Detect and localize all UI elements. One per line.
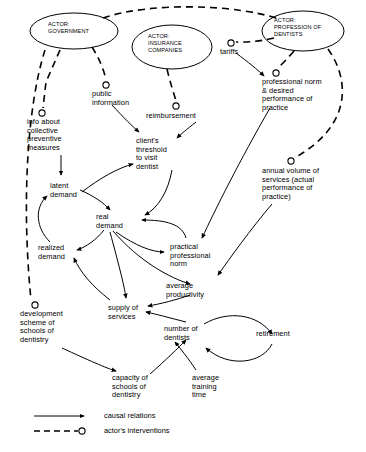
variable-label-latent-demand: latent demand	[50, 182, 77, 199]
diagram-edges-layer	[0, 0, 366, 452]
legend-intervention-circle	[79, 428, 85, 434]
actor-label-profession-of-dentists: ACTOR: PROFESSION OF DENTISTS	[274, 17, 338, 38]
arrow-real-demand-to-realized-demand	[77, 230, 104, 250]
intervention-label-reimbursement: reimbursement	[146, 112, 196, 121]
intervention-label-info-collective: info about collective preventive measure…	[27, 118, 62, 152]
dashed-government-to-development-scheme	[26, 50, 45, 300]
variable-label-supply-of-services: supply of services	[108, 304, 138, 321]
variable-label-clients-threshold: client's threshold to visit dentist	[136, 137, 167, 171]
dashed-government-to-dentists	[103, 7, 279, 19]
legend-label-causal-relations: causal relations	[104, 411, 155, 420]
actor-label-insurance-companies: ACTOR: INSURANCE COMPANIES	[148, 33, 206, 54]
arrow-practical-norm-to-real-demand	[142, 220, 186, 238]
intervention-circle-reimbursement	[173, 103, 179, 109]
dashed-insurance-to-reimbursement	[167, 69, 176, 101]
arrow-realized-demand-to-latent-demand	[38, 196, 50, 242]
variable-label-practical-professional-norm: practical professional norm	[170, 243, 210, 269]
dashed-government-to-public-information	[92, 47, 106, 80]
legend-label-actor-interventions: actor's interventions	[104, 426, 170, 435]
variable-label-capacity-of-schools: capacity of schools of dentistry	[112, 374, 148, 400]
arrow-development-scheme-to-capacity-of-schools	[62, 348, 116, 371]
variable-label-average-training-time: average training time	[192, 374, 219, 400]
intervention-circle-info-collective	[39, 110, 45, 116]
variable-label-real-demand: real demand	[96, 213, 123, 230]
arrow-public-information-to-clients-threshold	[112, 105, 139, 132]
arrow-number-of-dentists-to-supply-of-services	[146, 312, 186, 322]
intervention-circle-professional-norm	[273, 70, 279, 76]
arrow-tariffs-to-professional-norm	[236, 53, 264, 76]
arrow-latent-demand-to-real-demand	[80, 190, 110, 210]
intervention-label-professional-norm-desired: professional norm & desired performance …	[262, 78, 322, 112]
arrow-average-training-time-to-number-of-dentists	[175, 342, 196, 370]
arrow-capacity-of-schools-to-number-of-dentists	[150, 340, 186, 374]
intervention-label-annual-volume: annual volume of services (actual perfor…	[262, 167, 319, 201]
variable-label-average-productivity: average productivity	[166, 282, 204, 299]
intervention-circle-public-information	[103, 82, 109, 88]
variable-label-retirement: retirement	[256, 330, 290, 339]
dashed-government-to-info-collective	[43, 50, 60, 108]
intervention-circle-annual-volume	[288, 158, 294, 164]
arrow-annual-volume-to-average-productivity	[218, 204, 272, 275]
arrow-retirement-to-number-of-dentists	[206, 344, 272, 361]
intervention-label-tariffs: tariffs	[220, 48, 238, 57]
dashed-dentists-to-professional-norm	[278, 51, 294, 68]
variable-label-realized-demand: realized demand	[38, 244, 65, 261]
intervention-circle-development-scheme	[32, 302, 38, 308]
arrow-reimbursement-to-clients-threshold	[177, 122, 196, 138]
arrow-supply-of-services-to-realized-demand	[74, 258, 110, 300]
causal-loop-diagram: ACTOR: GOVERNMENT ACTOR: INSURANCE COMPA…	[0, 0, 366, 452]
intervention-label-public-information: public information	[92, 90, 129, 107]
intervention-label-development-scheme: development scheme of schools of dentist…	[20, 310, 63, 344]
variable-label-number-of-dentists: number of dentists	[164, 325, 198, 342]
arrow-latent-demand-to-clients-threshold	[82, 164, 133, 192]
intervention-circle-tariffs	[228, 40, 234, 46]
actor-label-government: ACTOR: GOVERNMENT	[48, 21, 108, 35]
arrow-clients-threshold-to-real-demand	[145, 170, 172, 215]
